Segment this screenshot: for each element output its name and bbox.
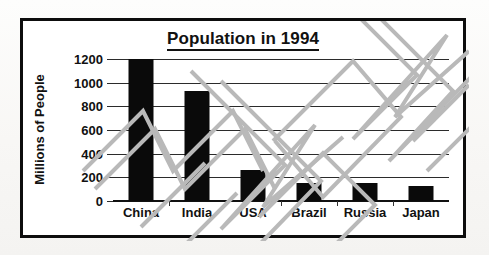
bars-group bbox=[113, 59, 449, 201]
bar-japan[interactable] bbox=[409, 186, 434, 201]
chart-frame: Population in 1994 Millions of People 02… bbox=[20, 18, 466, 238]
bar-brazil[interactable] bbox=[297, 183, 322, 201]
y-axis-title-text: Millions of People bbox=[32, 74, 47, 185]
y-axis-title: Millions of People bbox=[31, 49, 47, 209]
bar-russia[interactable] bbox=[353, 183, 378, 201]
bar-china[interactable] bbox=[129, 59, 154, 201]
y-axis-tick-label: 0 bbox=[96, 194, 103, 209]
x-axis-tick-label-china: China bbox=[123, 205, 159, 220]
chart-title-text: Population in 1994 bbox=[167, 29, 319, 51]
bar-usa[interactable] bbox=[241, 170, 266, 201]
bar-slot bbox=[113, 59, 169, 201]
bar-slot bbox=[393, 59, 449, 201]
y-axis-tick-label: 400 bbox=[81, 146, 103, 161]
chart-title: Population in 1994 bbox=[23, 29, 463, 49]
x-axis-tick-label-brazil: Brazil bbox=[291, 205, 326, 220]
y-axis-tick-label: 600 bbox=[81, 123, 103, 138]
y-axis-tick-labels: 020040060080010001200 bbox=[51, 59, 107, 201]
bar-slot bbox=[337, 59, 393, 201]
bar-slot bbox=[225, 59, 281, 201]
bar-india[interactable] bbox=[185, 91, 210, 201]
plot-wrapper: 020040060080010001200 ChinaIndiaUSABrazi… bbox=[51, 59, 461, 221]
y-axis-tick-label: 200 bbox=[81, 170, 103, 185]
x-axis-tick-label-japan: Japan bbox=[402, 205, 440, 220]
x-axis-tick-labels: ChinaIndiaUSABrazilRussiaJapan bbox=[113, 205, 449, 225]
x-axis-tick-label-india: India bbox=[182, 205, 212, 220]
y-axis-tick-label: 1000 bbox=[74, 75, 103, 90]
y-axis-tick-label: 1200 bbox=[74, 52, 103, 67]
bar-slot bbox=[281, 59, 337, 201]
y-axis-tick-mark bbox=[107, 201, 113, 202]
plot-area bbox=[113, 59, 449, 201]
x-axis-tick-label-usa: USA bbox=[239, 205, 266, 220]
y-axis-tick-label: 800 bbox=[81, 99, 103, 114]
bar-slot bbox=[169, 59, 225, 201]
x-axis-tick-label-russia: Russia bbox=[344, 205, 387, 220]
